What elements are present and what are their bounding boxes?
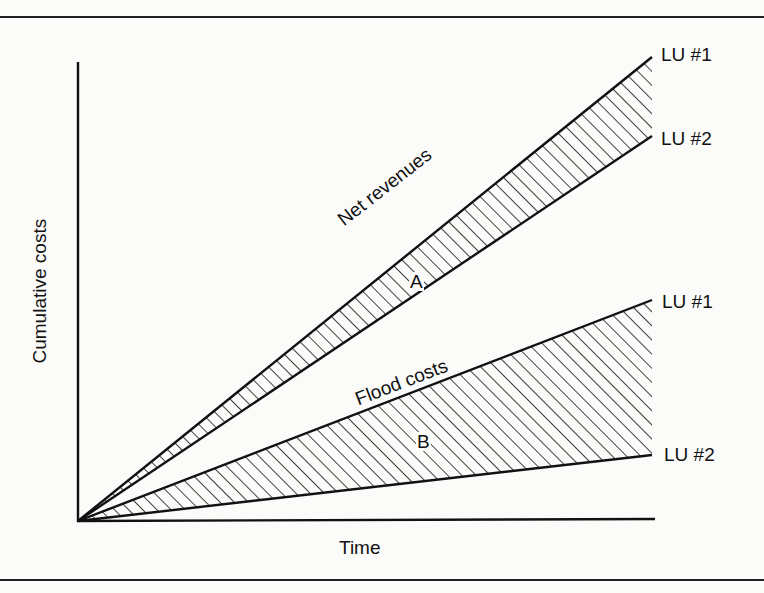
flood-costs-lu2-label: LU #2 [664, 445, 715, 464]
x-axis [77, 519, 655, 521]
region-a-label: A [409, 272, 424, 291]
net-revenues-lu1-label: LU #1 [661, 45, 712, 64]
flood-costs-lu1-label: LU #1 [662, 292, 713, 311]
chart-figure [0, 0, 764, 593]
net-revenues-lu2-label: LU #2 [661, 129, 712, 148]
y-axis-label: Cumulative costs [30, 224, 49, 364]
region-b-label: B [416, 432, 431, 451]
x-axis-label: Time [339, 538, 381, 557]
